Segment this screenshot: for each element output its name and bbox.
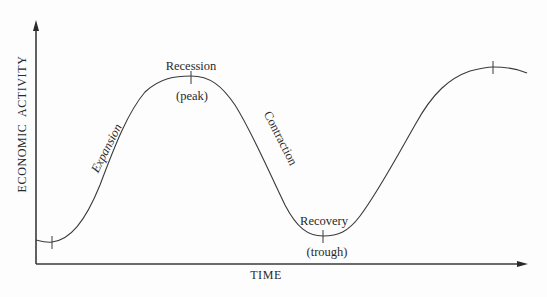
peak-label: (peak) xyxy=(176,89,208,103)
x-axis-arrow-icon xyxy=(517,261,528,267)
recession-label: Recession xyxy=(166,59,217,73)
recovery-label: Recovery xyxy=(300,214,349,228)
business-cycle-diagram: ECONOMIC ACTIVITY TIME Expansion Recessi… xyxy=(0,0,547,297)
trough-label: (trough) xyxy=(307,245,348,259)
diagram-canvas: ECONOMIC ACTIVITY TIME Expansion Recessi… xyxy=(0,0,547,297)
y-axis-label: ECONOMIC ACTIVITY xyxy=(15,56,29,193)
y-axis-arrow-icon xyxy=(33,20,39,31)
contraction-label: Contraction xyxy=(261,109,301,169)
x-axis-label: TIME xyxy=(250,268,282,282)
